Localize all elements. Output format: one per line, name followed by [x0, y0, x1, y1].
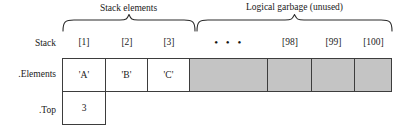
index-label-row: [1] [2] [3] • • • [98] [99] [100]	[62, 36, 392, 50]
stack-diagram: Stack elements Logical garbage (unused) …	[0, 0, 408, 132]
array-cell-gap[interactable]	[189, 58, 268, 92]
array-cell-99[interactable]	[311, 58, 355, 92]
brace-caption-logical-garbage: Logical garbage (unused)	[197, 2, 392, 13]
index-label-ellipsis: • • •	[190, 36, 268, 49]
index-label-99: [99]	[312, 36, 355, 49]
index-label-1: [1]	[62, 36, 106, 49]
curly-brace-icon-logical-garbage	[196, 14, 393, 32]
row-label-stack: Stack	[0, 37, 56, 49]
array-cell-98[interactable]	[267, 58, 312, 92]
array-cell-100[interactable]	[354, 58, 392, 92]
array-cell-3[interactable]: 'C'	[147, 58, 190, 92]
curly-brace-icon-stack-elements	[62, 14, 196, 32]
row-label-top: .Top	[0, 104, 56, 116]
index-label-100: [100]	[355, 36, 392, 49]
brace-caption-stack-elements: Stack elements	[62, 3, 195, 14]
top-value-cell[interactable]: 3	[62, 92, 106, 125]
elements-array-row: 'A' 'B' 'C'	[62, 58, 392, 92]
row-label-elements: .Elements	[0, 68, 56, 80]
index-label-98: [98]	[268, 36, 312, 49]
array-cell-1[interactable]: 'A'	[62, 58, 106, 92]
index-label-3: [3]	[148, 36, 190, 49]
array-cell-2[interactable]: 'B'	[105, 58, 148, 92]
index-label-2: [2]	[106, 36, 148, 49]
